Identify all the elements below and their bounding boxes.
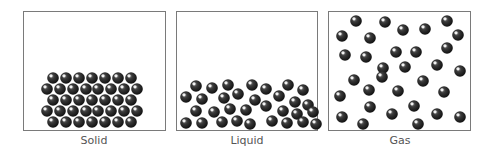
particle-highlight: [268, 117, 271, 120]
particle: [249, 94, 261, 106]
particle-highlight: [127, 96, 130, 99]
particle-highlight: [338, 32, 341, 35]
particle-highlight: [88, 96, 91, 99]
particle-highlight: [220, 94, 223, 97]
particle: [379, 16, 391, 28]
particle: [99, 72, 111, 84]
particle: [386, 108, 398, 120]
particle: [376, 71, 388, 83]
liquid-label: Liquid: [187, 134, 307, 147]
particle: [260, 83, 272, 95]
particle-highlight: [114, 118, 117, 121]
particle: [112, 94, 124, 106]
particle: [307, 106, 319, 118]
particle: [86, 72, 98, 84]
particle-highlight: [443, 17, 446, 20]
particle-highlight: [262, 85, 265, 88]
solid-particles: [41, 72, 143, 128]
particle: [260, 100, 272, 112]
particle-highlight: [283, 119, 286, 122]
particle: [334, 90, 346, 102]
particle: [452, 29, 464, 41]
particle: [92, 83, 104, 95]
particle: [131, 105, 143, 117]
particle: [67, 83, 79, 95]
particle: [54, 105, 66, 117]
particle-highlight: [379, 64, 382, 67]
particle-highlight: [365, 86, 368, 89]
particle-highlight: [75, 96, 78, 99]
particle: [60, 72, 72, 84]
particle-highlight: [381, 18, 384, 21]
particle: [246, 79, 258, 91]
particle-highlight: [338, 113, 341, 116]
particle: [412, 118, 424, 130]
particle-highlight: [182, 93, 185, 96]
particle-highlight: [82, 107, 85, 110]
particle: [99, 116, 111, 128]
particle-highlight: [246, 120, 249, 123]
particle: [180, 117, 192, 129]
particle-highlight: [401, 63, 404, 66]
particle-highlight: [399, 26, 402, 29]
particle: [47, 116, 59, 128]
particle: [41, 83, 53, 95]
particle-highlight: [284, 81, 287, 84]
particle-highlight: [419, 77, 422, 80]
particle-highlight: [421, 25, 424, 28]
particle: [231, 115, 243, 127]
particle-highlight: [366, 34, 369, 37]
particle-highlight: [366, 103, 369, 106]
particle: [112, 116, 124, 128]
particle: [99, 94, 111, 106]
particle-highlight: [120, 107, 123, 110]
particle-highlight: [69, 107, 72, 110]
particle-highlight: [101, 118, 104, 121]
particle-highlight: [75, 118, 78, 121]
particle: [92, 105, 104, 117]
particle-highlight: [133, 107, 136, 110]
particle-highlight: [120, 85, 123, 88]
particle-highlight: [279, 107, 282, 110]
particle: [266, 115, 278, 127]
particle-highlight: [62, 96, 65, 99]
particle-highlight: [234, 90, 237, 93]
particle-highlight: [293, 110, 296, 113]
particle-highlight: [341, 51, 344, 54]
particle: [196, 93, 208, 105]
solid-label: Solid: [34, 134, 154, 147]
particle-highlight: [101, 96, 104, 99]
particle-highlight: [107, 85, 110, 88]
particle: [350, 15, 362, 27]
particle-highlight: [262, 102, 265, 105]
particle-highlight: [88, 74, 91, 77]
particle: [310, 118, 322, 130]
particle: [297, 116, 309, 128]
particle-highlight: [410, 102, 413, 105]
particle-highlight: [251, 96, 254, 99]
particle: [47, 72, 59, 84]
particle: [47, 94, 59, 106]
particle: [118, 83, 130, 95]
particle-highlight: [456, 67, 459, 70]
particle-highlight: [394, 87, 397, 90]
particle: [180, 91, 192, 103]
particle-highlight: [56, 107, 59, 110]
particle-highlight: [224, 81, 227, 84]
particle-highlight: [433, 110, 436, 113]
particle: [289, 96, 301, 108]
particle: [364, 32, 376, 44]
particle-highlight: [75, 74, 78, 77]
particle: [348, 74, 360, 86]
particle: [196, 117, 208, 129]
particle-highlight: [312, 120, 315, 123]
particle: [364, 101, 376, 113]
particle-highlight: [443, 44, 446, 47]
particle-highlight: [56, 85, 59, 88]
particle-highlight: [192, 107, 195, 110]
particle: [360, 51, 372, 63]
particle-highlight: [359, 120, 362, 123]
particle: [417, 75, 429, 87]
particle: [244, 118, 256, 130]
particle-highlight: [114, 96, 117, 99]
